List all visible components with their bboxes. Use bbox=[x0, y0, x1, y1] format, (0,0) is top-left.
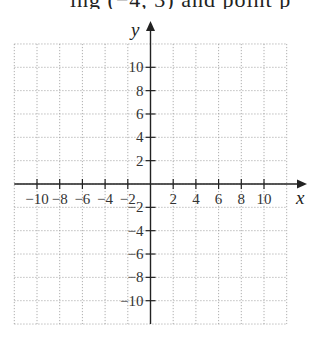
x-tick-label: 8 bbox=[238, 191, 246, 207]
y-tick-label: −6 bbox=[128, 246, 144, 262]
x-tick-label: 4 bbox=[192, 191, 200, 207]
x-axis-label: x bbox=[295, 187, 305, 208]
y-tick-label: 6 bbox=[136, 106, 144, 122]
coordinate-plane: −10−8−6−4−2246810−10−8−6−4−2246810 x y bbox=[0, 0, 319, 343]
y-tick-label: −10 bbox=[120, 293, 143, 309]
y-axis-arrow-icon bbox=[146, 21, 155, 31]
y-tick-label: 10 bbox=[129, 59, 144, 75]
x-tick-label: 2 bbox=[169, 191, 177, 207]
y-tick-label: 4 bbox=[136, 129, 144, 145]
axes bbox=[14, 21, 307, 324]
x-tick-label: 6 bbox=[215, 191, 223, 207]
y-tick-label: −8 bbox=[128, 269, 144, 285]
y-axis-label: y bbox=[129, 19, 140, 40]
y-tick-label: −4 bbox=[128, 223, 144, 239]
x-tick-label: −4 bbox=[97, 191, 113, 207]
y-tick-label: 8 bbox=[136, 83, 144, 99]
x-tick-label: −10 bbox=[25, 191, 48, 207]
y-tick-label: −2 bbox=[128, 199, 144, 215]
x-tick-label: −8 bbox=[52, 191, 68, 207]
y-tick-label: 2 bbox=[136, 153, 144, 169]
x-tick-label: −6 bbox=[74, 191, 90, 207]
x-tick-label: 10 bbox=[257, 191, 272, 207]
